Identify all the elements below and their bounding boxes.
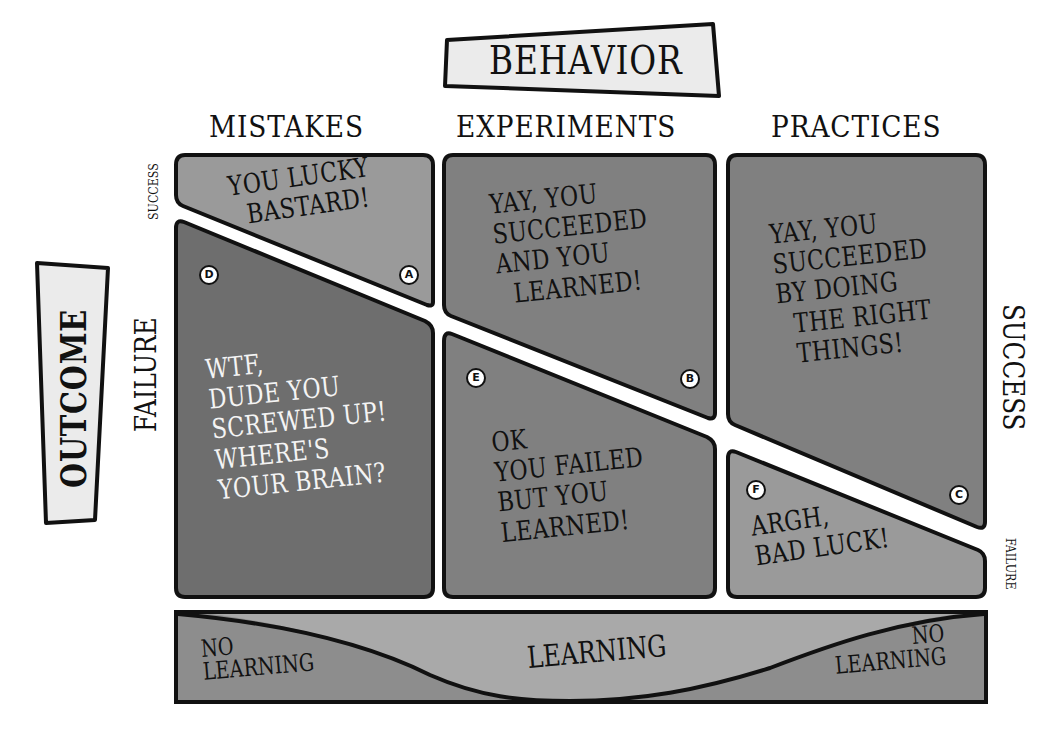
marker-e: E <box>466 368 486 388</box>
left-failure-label: FAILURE <box>131 317 161 432</box>
quadrant-b-text: YAY, YOU SUCCEEDED AND YOU LEARNED! <box>488 174 655 311</box>
column-header-practices: PRACTICES <box>771 112 941 142</box>
behavior-title: BEHAVIOR <box>489 40 682 80</box>
quadrant-c-text: YAY, YOU SUCCEEDED BY DOING THE RIGHT TH… <box>768 204 938 371</box>
marker-a: A <box>399 265 419 285</box>
no-learning-right-label: NO LEARNING <box>832 622 947 677</box>
quadrant-e-text: OK YOU FAILED BUT YOU LEARNED! <box>490 412 651 548</box>
marker-b: B <box>680 369 700 389</box>
right-success-label: SUCCESS <box>998 304 1028 430</box>
right-failure-label: FAILURE <box>1004 538 1017 589</box>
quadrant-d-text: WTF, DUDE YOU SCREWED UP! WHERE'S YOUR B… <box>204 337 394 506</box>
left-success-label: SUCCESS <box>147 163 160 220</box>
marker-d: D <box>199 265 219 285</box>
outcome-title: OUTCOME <box>55 309 91 488</box>
marker-c: C <box>949 485 969 505</box>
no-learning-left-label: NO LEARNING <box>200 628 315 683</box>
marker-f: F <box>746 480 766 500</box>
column-header-experiments: EXPERIMENTS <box>456 112 676 142</box>
column-header-mistakes: MISTAKES <box>209 112 364 142</box>
